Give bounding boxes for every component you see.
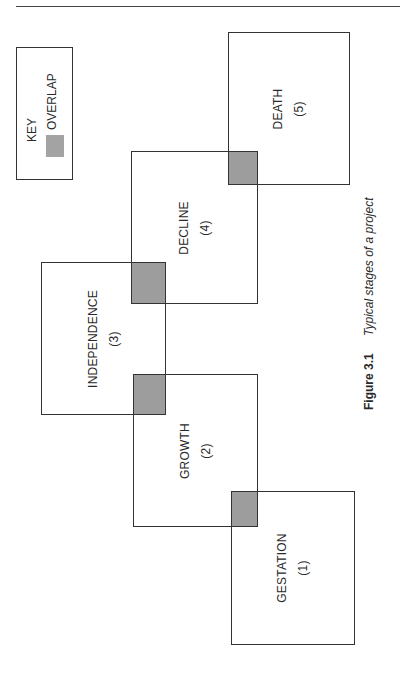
figure-title: Typical stages of a project <box>362 197 376 336</box>
key-title: KEY <box>25 118 39 142</box>
overlap-region <box>131 262 166 304</box>
stage-label: DEATH (5) <box>268 88 310 129</box>
stage-number: (5) <box>289 88 310 129</box>
stage-label: INDEPENDENCE (3) <box>83 290 125 388</box>
stage-name: GROWTH <box>175 423 196 479</box>
figure-caption: Figure 3.1 Typical stages of a project <box>362 197 376 410</box>
overlap-region <box>231 491 258 527</box>
stage-number: (1) <box>293 533 314 602</box>
stage-number: (4) <box>195 201 216 254</box>
overlap-swatch <box>46 135 64 157</box>
stage-label: GROWTH (2) <box>175 423 217 479</box>
key-item-label: OVERLAP <box>45 73 59 130</box>
stage-name: DEATH <box>268 88 289 129</box>
overlap-region <box>228 151 258 185</box>
key-legend: KEY OVERLAP <box>16 47 73 180</box>
stage-label: GESTATION (1) <box>272 533 314 602</box>
stage-name: INDEPENDENCE <box>83 290 104 388</box>
stage-number: (3) <box>104 290 125 388</box>
stage-number: (2) <box>196 423 217 479</box>
header-rule <box>16 6 400 7</box>
figure-number: Figure 3.1 <box>362 353 376 410</box>
stage-label: DECLINE (4) <box>174 201 216 254</box>
overlap-region <box>133 374 166 415</box>
stage-name: GESTATION <box>272 533 293 602</box>
stage-name: DECLINE <box>174 201 195 254</box>
